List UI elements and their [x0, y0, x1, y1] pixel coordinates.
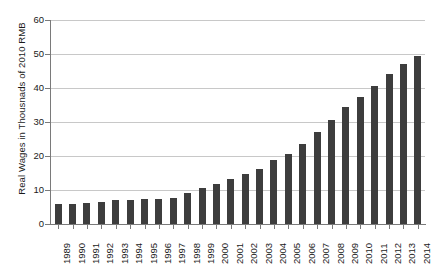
- y-tick-label-60: 60: [4, 15, 44, 24]
- x-tick-mark-1991: [87, 224, 88, 229]
- bar-2011: [371, 86, 378, 224]
- bar-1999: [199, 188, 206, 224]
- x-tick-mark-1997: [173, 224, 174, 229]
- x-tick-mark-2001: [231, 224, 232, 229]
- bar-1998: [184, 193, 191, 224]
- x-tick-mark-2004: [274, 224, 275, 229]
- x-tick-label-1998: 1998: [192, 243, 201, 264]
- x-tick-mark-1990: [73, 224, 74, 229]
- x-tick-mark-2005: [288, 224, 289, 229]
- x-tick-label-2000: 2000: [220, 243, 229, 264]
- x-tick-mark-1999: [202, 224, 203, 229]
- x-tick-mark-2012: [389, 224, 390, 229]
- x-tick-label-1999: 1999: [206, 243, 215, 264]
- bar-2010: [357, 97, 364, 225]
- bar-2006: [299, 144, 306, 224]
- bar-1996: [155, 199, 162, 225]
- y-tick-mark-50: [45, 54, 50, 55]
- y-tick-label-0: 0: [4, 219, 44, 228]
- x-tick-label-1997: 1997: [177, 243, 186, 264]
- bar-1995: [141, 199, 148, 224]
- y-tick-label-50: 50: [4, 49, 44, 58]
- bar-1992: [98, 202, 105, 224]
- y-tick-mark-30: [45, 122, 50, 123]
- x-tick-mark-1998: [188, 224, 189, 229]
- x-tick-mark-2008: [332, 224, 333, 229]
- x-axis-tick-labels: 1989199019911992199319941995199619971998…: [51, 230, 425, 267]
- x-tick-label-1990: 1990: [77, 243, 86, 264]
- x-tick-label-2014: 2014: [422, 243, 431, 264]
- bar-2013: [400, 64, 407, 224]
- bar-1990: [69, 204, 76, 224]
- y-tick-label-40: 40: [4, 83, 44, 92]
- x-tick-mark-2009: [346, 224, 347, 229]
- bar-2003: [256, 169, 263, 224]
- x-tick-mark-2006: [303, 224, 304, 229]
- x-tick-mark-1989: [58, 224, 59, 229]
- bar-chart: Real Wages in Thousnads of 2010 RMB 0102…: [0, 0, 439, 267]
- x-tick-label-2012: 2012: [393, 243, 402, 264]
- x-tick-mark-2014: [418, 224, 419, 229]
- x-tick-label-2004: 2004: [278, 243, 287, 264]
- bar-2001: [227, 179, 234, 224]
- x-tick-mark-2007: [317, 224, 318, 229]
- bar-1991: [83, 203, 90, 224]
- x-tick-label-2009: 2009: [350, 243, 359, 264]
- x-tick-label-1996: 1996: [163, 243, 172, 264]
- y-tick-mark-60: [45, 20, 50, 21]
- y-tick-mark-0: [45, 224, 50, 225]
- bar-1989: [55, 204, 62, 224]
- y-tick-label-30: 30: [4, 117, 44, 126]
- x-tick-mark-1992: [101, 224, 102, 229]
- x-tick-label-2007: 2007: [321, 243, 330, 264]
- x-tick-label-2010: 2010: [364, 243, 373, 264]
- x-tick-label-1991: 1991: [91, 243, 100, 264]
- bar-1997: [170, 198, 177, 224]
- bar-2012: [386, 74, 393, 224]
- x-tick-label-2001: 2001: [235, 243, 244, 264]
- x-tick-mark-2002: [245, 224, 246, 229]
- y-tick-mark-10: [45, 190, 50, 191]
- x-tick-label-2006: 2006: [307, 243, 316, 264]
- x-tick-label-2011: 2011: [379, 244, 388, 264]
- x-tick-label-2005: 2005: [292, 243, 301, 264]
- y-axis-tick-labels: 0102030405060: [0, 0, 44, 267]
- bar-2014: [414, 56, 421, 224]
- x-tick-label-2002: 2002: [249, 243, 258, 264]
- x-tick-mark-2011: [375, 224, 376, 229]
- y-tick-label-10: 10: [4, 185, 44, 194]
- bar-2009: [342, 107, 349, 224]
- x-tick-label-2013: 2013: [407, 243, 416, 264]
- x-tick-mark-2013: [403, 224, 404, 229]
- bar-2004: [270, 160, 277, 224]
- bar-1993: [112, 200, 119, 224]
- bar-2000: [213, 184, 220, 224]
- y-tick-label-20: 20: [4, 151, 44, 160]
- bar-2008: [328, 120, 335, 224]
- x-tick-mark-1993: [116, 224, 117, 229]
- y-tick-mark-20: [45, 156, 50, 157]
- bar-series: [51, 20, 425, 224]
- x-tick-mark-2000: [216, 224, 217, 229]
- bar-1994: [127, 200, 134, 224]
- x-tick-label-1992: 1992: [105, 243, 114, 264]
- x-tick-label-1994: 1994: [134, 243, 143, 264]
- x-tick-label-1995: 1995: [149, 243, 158, 264]
- x-tick-label-1989: 1989: [62, 243, 71, 264]
- x-tick-mark-1994: [130, 224, 131, 229]
- bar-2005: [285, 154, 292, 224]
- x-tick-mark-1996: [159, 224, 160, 229]
- bar-2002: [242, 174, 249, 224]
- bar-2007: [314, 132, 321, 224]
- x-tick-mark-1995: [145, 224, 146, 229]
- x-tick-mark-2010: [360, 224, 361, 229]
- x-tick-mark-2003: [260, 224, 261, 229]
- x-tick-label-1993: 1993: [120, 243, 129, 264]
- y-tick-mark-40: [45, 88, 50, 89]
- x-tick-label-2003: 2003: [264, 243, 273, 264]
- x-tick-label-2008: 2008: [336, 243, 345, 264]
